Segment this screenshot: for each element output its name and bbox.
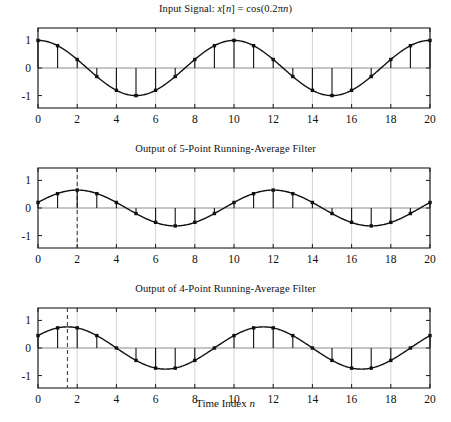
plot-1: 02468101214161820-101: [0, 0, 451, 422]
svg-text:-1: -1: [21, 90, 31, 102]
svg-text:1: 1: [25, 314, 31, 326]
figure-container: Input Signal: x[n] = cos(0.2πn)024681012…: [0, 0, 451, 422]
signal-curve-1: [38, 190, 430, 226]
svg-text:8: 8: [192, 253, 198, 265]
signal-curve-0: [38, 40, 430, 95]
svg-text:0: 0: [25, 342, 31, 354]
panel-title-1: Output of 5-Point Running-Average Filter: [0, 143, 451, 154]
svg-text:12: 12: [267, 113, 279, 125]
svg-text:10: 10: [228, 253, 240, 265]
panel-title-0: Input Signal: x[n] = cos(0.2πn): [0, 3, 451, 14]
svg-text:-1: -1: [21, 370, 31, 382]
svg-text:0: 0: [35, 113, 41, 125]
svg-text:18: 18: [385, 253, 397, 265]
svg-text:10: 10: [228, 113, 240, 125]
svg-text:20: 20: [424, 253, 436, 265]
svg-text:14: 14: [307, 113, 319, 125]
svg-text:2: 2: [74, 113, 80, 125]
panel-title-2: Output of 4-Point Running-Average Filter: [0, 283, 451, 294]
svg-text:6: 6: [153, 113, 159, 125]
svg-text:0: 0: [35, 253, 41, 265]
svg-text:0: 0: [25, 202, 31, 214]
svg-text:4: 4: [114, 253, 120, 265]
svg-text:16: 16: [346, 113, 358, 125]
svg-text:0: 0: [25, 62, 31, 74]
x-axis-label: Time Index n: [0, 397, 451, 409]
svg-text:20: 20: [424, 113, 436, 125]
svg-text:1: 1: [25, 34, 31, 46]
svg-text:16: 16: [346, 253, 358, 265]
plot-2: 02468101214161820-101: [0, 0, 451, 422]
svg-text:8: 8: [192, 113, 198, 125]
signal-curve-2: [38, 327, 430, 369]
svg-text:1: 1: [25, 174, 31, 186]
svg-text:4: 4: [114, 113, 120, 125]
svg-text:6: 6: [153, 253, 159, 265]
svg-text:12: 12: [267, 253, 279, 265]
svg-text:-1: -1: [21, 230, 31, 242]
svg-text:14: 14: [307, 253, 319, 265]
svg-text:18: 18: [385, 113, 397, 125]
plot-0: 02468101214161820-101: [0, 0, 451, 422]
svg-text:2: 2: [74, 253, 80, 265]
